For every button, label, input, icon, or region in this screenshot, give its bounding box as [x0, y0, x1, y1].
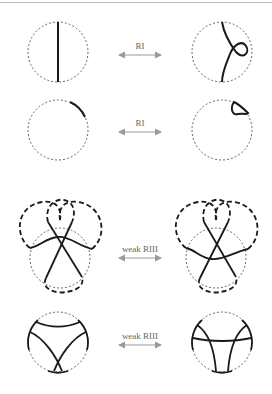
row-2-left-diagram	[28, 100, 88, 160]
row-4-left-diagram	[28, 312, 88, 373]
row-4-right-diagram	[192, 312, 252, 373]
row-1-move-label: RI	[110, 41, 170, 51]
row-3-left-diagram	[20, 200, 102, 293]
row-1-right-diagram	[192, 22, 252, 82]
row-2-move-label: RI	[110, 118, 170, 128]
row-4-move-label: weak RIII	[110, 331, 170, 341]
row-3-move-label: weak RIII	[110, 244, 170, 254]
row-3-right-diagram	[176, 200, 258, 293]
row-1-left-diagram	[28, 22, 88, 82]
row-2-right-diagram	[192, 100, 252, 160]
